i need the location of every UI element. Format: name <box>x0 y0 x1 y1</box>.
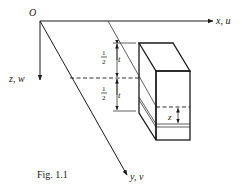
y-axis <box>40 21 127 175</box>
svg-text:t: t <box>118 90 121 100</box>
x-axis-label: x, u <box>215 15 230 26</box>
svg-text:1: 1 <box>102 85 106 93</box>
lower-half-thickness-label: 1 2 t <box>101 85 121 102</box>
y-axis-label: y, v <box>129 171 144 182</box>
z-offset-label: z <box>167 112 172 122</box>
svg-text:2: 2 <box>102 94 106 102</box>
origin-label: O <box>29 7 36 18</box>
projection-line <box>108 21 157 108</box>
upper-half-thickness-label: 1 2 t <box>101 49 121 66</box>
svg-text:1: 1 <box>102 49 106 57</box>
plate-element-box <box>139 43 190 140</box>
svg-text:2: 2 <box>102 58 106 66</box>
thickness-dimension <box>113 43 136 111</box>
plate-coordinate-diagram: O x, u z, w y, v 1 2 t 1 2 t z Fig. 1.1 <box>0 0 249 191</box>
figure-caption: Fig. 1.1 <box>37 169 68 180</box>
svg-text:t: t <box>118 54 121 64</box>
z-axis-label: z, w <box>8 73 25 84</box>
